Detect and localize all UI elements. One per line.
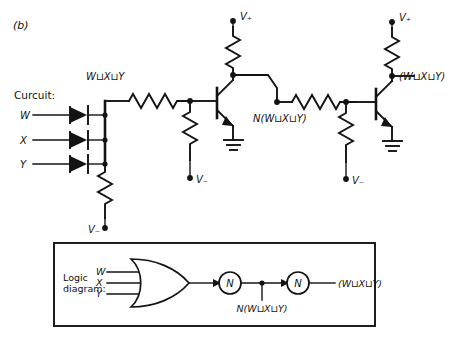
circuit-node-label-or-output: W⊔X⊔Y [86, 71, 125, 82]
logic-section-label-line1: Logic [63, 272, 88, 283]
circuit-input-label-y: Y [20, 159, 27, 170]
inverter-1-label: N [226, 278, 234, 289]
circuit-input-label-w: W [20, 110, 31, 121]
input-branch-y [33, 155, 108, 173]
logic-intermediate-label: N(W⊔X⊔Y) [236, 303, 287, 314]
logic-input-lines [107, 272, 140, 294]
logic-output-label: (W⊔X⊔Y) [338, 278, 382, 289]
terminal-vminus-stage2 [343, 176, 349, 182]
input-branch-w [33, 106, 108, 124]
terminal-vminus-stage1 [187, 175, 193, 181]
supply-label-vminus-input: V₋ [88, 224, 100, 235]
resistor-pulldown-stage2 [339, 102, 353, 162]
ground-symbol-2 [383, 141, 402, 151]
logic-input-label-w: W [96, 266, 106, 277]
npn-transistor-2 [376, 76, 392, 141]
interstage-bend-wire [233, 75, 277, 100]
resistor-collector-2 [385, 28, 399, 76]
resistor-pulldown-input [98, 164, 112, 218]
circuit-node-label-first-stage: N(W⊔X⊔Y) [253, 113, 307, 124]
npn-transistor-1 [217, 75, 233, 140]
resistor-series-1 [129, 94, 190, 108]
input-branch-x [33, 131, 108, 149]
supply-label-vminus-1: V₋ [196, 174, 208, 185]
circuit-schematic-canvas: (b) Curcuit: W X Y W⊔X⊔Y N(W⊔X⊔Y) (W⊔X⊔Y… [0, 0, 452, 345]
circuit-node-label-output: (W⊔X⊔Y) [399, 71, 445, 82]
resistor-collector-1 [226, 27, 240, 75]
circuit-section-label: Curcuit: [14, 89, 55, 101]
supply-label-vplus-1: V₊ [240, 11, 252, 22]
circuit-input-label-x: X [19, 135, 28, 146]
figure-root: (b) Curcuit: W X Y W⊔X⊔Y N(W⊔X⊔Y) (W⊔X⊔Y… [0, 0, 452, 345]
panel-label: (b) [13, 19, 29, 32]
inverter-2-label: N [294, 278, 302, 289]
logic-input-label-x: X [95, 277, 103, 288]
supply-label-vminus-2: V₋ [352, 175, 364, 186]
resistor-pulldown-stage1 [183, 101, 197, 160]
ground-symbol-1 [224, 140, 243, 150]
supply-label-vplus-2: V₊ [399, 12, 411, 23]
